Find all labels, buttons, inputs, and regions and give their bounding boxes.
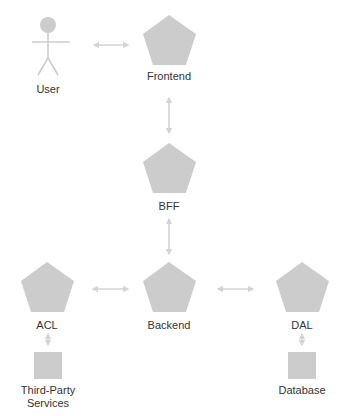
database-label: Database [278, 384, 325, 397]
backend-node-icon[interactable] [143, 262, 196, 312]
user-actor-icon[interactable] [32, 17, 70, 75]
bff-node-icon[interactable] [143, 143, 196, 193]
acl-node-icon[interactable] [21, 262, 74, 312]
third-party-label-line2: Services [27, 397, 69, 410]
database-node-icon[interactable] [288, 352, 316, 379]
dal-label: DAL [291, 319, 312, 332]
third-party-label-line1: Third-Party [21, 384, 75, 397]
frontend-node-icon[interactable] [143, 15, 196, 65]
user-label: User [36, 83, 59, 96]
acl-label: ACL [36, 319, 57, 332]
bff-label: BFF [159, 200, 180, 213]
dal-node-icon[interactable] [276, 262, 329, 312]
backend-label: Backend [148, 319, 191, 332]
frontend-label: Frontend [147, 70, 191, 83]
third-party-node-icon[interactable] [34, 352, 62, 379]
